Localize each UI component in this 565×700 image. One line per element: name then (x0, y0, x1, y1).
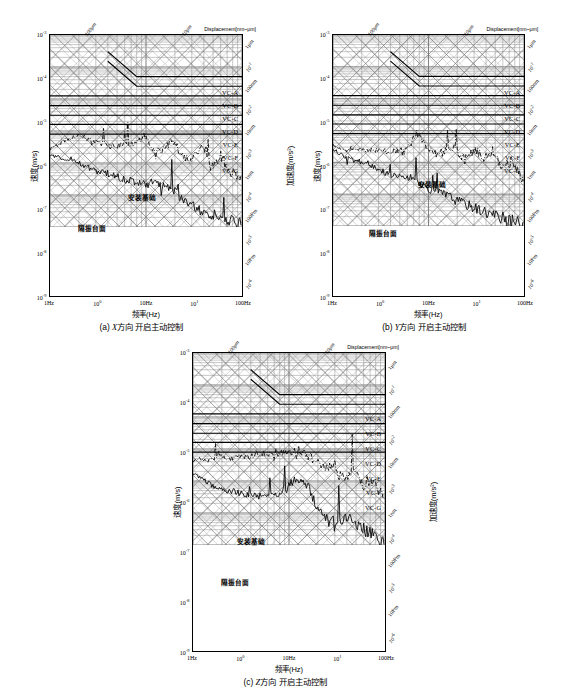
panel-z-direction: VC-AVC-BVC-CVC-DVC-EVC-FVC-G安装基础隔振台面10-3… (140, 340, 430, 700)
y-tick-right-displacement: 1μm (525, 39, 536, 51)
vc-label-vc-b: VC-B (365, 429, 381, 436)
panel-x-direction: VC-AVC-BVC-CVC-DVC-EVC-FVC-G安装基础隔振台面10-3… (0, 0, 283, 340)
x-tick: 101 (333, 655, 341, 662)
y-axis-title-left: 速度(m/s) (28, 150, 39, 181)
plot-graphics-b (333, 35, 524, 226)
plot-graphics-c (193, 353, 385, 545)
y-tick-right-acceleration: 10-4 (242, 191, 254, 203)
y-tick-right-acceleration: 10-3 (385, 483, 397, 495)
vc-label-vc-e: VC-E (366, 474, 382, 481)
y-tick-right-acceleration: 10-2 (242, 104, 254, 116)
y-tick-right-displacement: 10Pm (243, 253, 256, 267)
y-tick-right-acceleration: 10-3 (524, 148, 536, 160)
y-tick-right-acceleration: 10-4 (385, 533, 397, 545)
y-tick-right-displacement: 10nm (525, 123, 538, 137)
vc-label-vc-f: VC-F (505, 153, 520, 160)
annotation-isolation-table-a: 隔振台面 (78, 223, 106, 233)
y-tick-left: 10-8 (320, 250, 330, 257)
y-tick-right-acceleration: 10-4 (524, 191, 536, 203)
y-tick-right-displacement: 1μm (386, 359, 397, 371)
y-tick-left: 10-7 (37, 206, 47, 213)
y-tick-right-acceleration: 10-1 (385, 384, 397, 396)
y-tick-right-displacement: 1nm (243, 169, 254, 181)
x-tick: 100 (236, 655, 244, 662)
x-tick: 100Hz (378, 655, 394, 661)
y-tick-right-displacement: 10Pm (525, 253, 538, 267)
y-tick-left: 10-3 (37, 31, 47, 38)
vc-label-vc-d: VC-D (365, 459, 381, 466)
annotation-isolation-table-c: 隔振台面 (221, 577, 249, 587)
y-tick-right-displacement: 100nm (525, 78, 539, 94)
annotation-mounting-base-c: 安装基础 (237, 536, 265, 546)
vc-label-vc-c: VC-C (504, 114, 520, 121)
y-tick-left: 10-7 (320, 206, 330, 213)
y-tick-right-acceleration: 10-2 (524, 104, 536, 116)
displacement-header: Displacement[nm~μm] (204, 26, 256, 32)
vc-label-vc-e: VC-E (505, 141, 521, 148)
x-tick: 101 (473, 300, 481, 307)
y-tick-right-displacement: 100Pm (386, 552, 400, 568)
plot-area-a: VC-AVC-BVC-CVC-DVC-EVC-FVC-G安装基础隔振台面 (49, 34, 243, 297)
y-tick-right-displacement: 1nm (386, 507, 397, 519)
y-tick-left: 10-8 (180, 599, 190, 606)
vc-label-vc-a: VC-A (504, 88, 520, 95)
x-tick: 1Hz (187, 655, 197, 661)
y-tick-right-displacement: 10nm (386, 456, 399, 470)
panel-caption-c: (c) Z方向 开启主动控制 (140, 675, 430, 687)
y-tick-right-acceleration: 10-6 (242, 278, 254, 290)
annotation-isolation-table-b: 隔振台面 (369, 228, 397, 238)
displacement-header: Displacement[nm~μm] (347, 344, 399, 350)
y-tick-left: 10-3 (320, 31, 330, 38)
y-axis-title-left: 速度(m/s) (311, 150, 322, 181)
y-tick-right-acceleration: 10-5 (242, 234, 254, 246)
annotation-mounting-base-b: 安装基础 (418, 179, 446, 189)
x-tick: 100Hz (517, 300, 533, 306)
vc-label-vc-b: VC-B (504, 101, 520, 108)
y-tick-right-displacement: 100nm (386, 404, 400, 420)
y-tick-left: 10-4 (320, 74, 330, 81)
y-tick-right-displacement: 1nm (525, 169, 536, 181)
y-tick-right-acceleration: 10-5 (524, 234, 536, 246)
vc-label-vc-e: VC-E (223, 141, 239, 148)
x-tick: 100 (93, 300, 101, 307)
y-tick-left: 10-8 (37, 250, 47, 257)
y-tick-right-displacement: 1μm (243, 39, 254, 51)
x-axis-title: 频率(Hz) (275, 663, 303, 674)
vc-label-vc-d: VC-D (504, 128, 520, 135)
y-tick-right-displacement: 10Pm (386, 604, 399, 618)
x-tick: 10Hz (422, 300, 435, 306)
y-tick-right-acceleration: 10-1 (242, 61, 254, 73)
figure-wrap-c: VC-AVC-BVC-CVC-DVC-EVC-FVC-G安装基础隔振台面10-3… (140, 340, 430, 700)
y-tick-right-displacement: 100Pm (525, 208, 539, 224)
vc-label-vc-c: VC-C (365, 444, 381, 451)
figure-wrap-a: VC-AVC-BVC-CVC-DVC-EVC-FVC-G安装基础隔振台面10-3… (0, 0, 283, 340)
displacement-header: Displacement[nm~μm] (486, 26, 538, 32)
vc-label-vc-g: VC-G (504, 166, 520, 173)
y-axis-title-left: 速度(m/s) (171, 486, 182, 517)
y-tick-left: 10-3 (180, 349, 190, 356)
x-tick: 101 (190, 300, 198, 307)
panel-caption-b: (b) Y方向 开启主动控制 (283, 320, 565, 332)
vc-label-vc-d: VC-D (222, 128, 238, 135)
series-isolation-table-c (193, 466, 384, 545)
y-tick-left: 10-4 (37, 74, 47, 81)
x-tick: 100Hz (235, 300, 251, 306)
x-tick: 100 (376, 300, 384, 307)
x-tick: 1Hz (44, 300, 54, 306)
panel-caption-a: (a) X方向 开启主动控制 (0, 320, 283, 332)
x-axis-title: 频率(Hz) (132, 308, 160, 319)
figure-wrap-b: VC-AVC-BVC-CVC-DVC-EVC-FVC-G安装基础隔振台面10-3… (283, 0, 565, 340)
y-axis-title-right: 加速度(m/s²) (427, 482, 438, 523)
vc-label-vc-c: VC-C (222, 114, 238, 121)
y-tick-right-acceleration: 10-6 (385, 632, 397, 644)
x-axis-title: 频率(Hz) (414, 308, 442, 319)
y-tick-left: 10-5 (37, 118, 47, 125)
y-tick-right-acceleration: 10-1 (524, 61, 536, 73)
y-tick-left: 10-7 (180, 549, 190, 556)
y-tick-right-acceleration: 10-3 (242, 148, 254, 160)
y-tick-right-acceleration: 10-6 (524, 278, 536, 290)
y-tick-right-displacement: 100Pm (243, 208, 257, 224)
vc-label-vc-f: VC-F (366, 488, 381, 495)
panel-y-direction: VC-AVC-BVC-CVC-DVC-EVC-FVC-G安装基础隔振台面10-3… (283, 0, 565, 340)
vc-label-vc-a: VC-A (222, 88, 238, 95)
